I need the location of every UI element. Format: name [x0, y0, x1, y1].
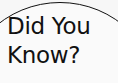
heading-line-1: Did You	[7, 12, 91, 41]
did-you-know-heading: Did You Know?	[7, 12, 91, 70]
heading-line-2: Know?	[7, 41, 91, 70]
